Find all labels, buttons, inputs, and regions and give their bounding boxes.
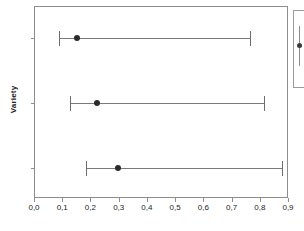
legend-marker-icon: [297, 43, 302, 48]
x-tick-label-8: 0,8: [245, 203, 275, 212]
x-tick-label-1: 0,1: [47, 203, 77, 212]
x-tick-0: [34, 198, 35, 202]
x-tick-7: [232, 198, 233, 202]
y-tick-a: [31, 38, 35, 39]
x-tick-label-6: 0,6: [188, 203, 218, 212]
errorbar-cap-upper-a: [250, 31, 251, 46]
data-point-b: [94, 100, 100, 106]
x-tick-5: [175, 198, 176, 202]
x-tick-6: [203, 198, 204, 202]
errorbar-line-a: [59, 38, 250, 39]
errorbar-cap-lower-b: [70, 96, 71, 111]
data-point-c: [115, 165, 121, 171]
x-tick-4: [147, 198, 148, 202]
errorbar-cap-upper-c: [282, 161, 283, 176]
x-tick-3: [119, 198, 120, 202]
x-tick-label-3: 0,3: [104, 203, 134, 212]
y-axis-title: Variety: [9, 65, 18, 135]
errorbar-cap-lower-a: [59, 31, 60, 46]
x-tick-2: [90, 198, 91, 202]
x-tick-label-2: 0,2: [75, 203, 105, 212]
errorbar-cap-lower-c: [86, 161, 87, 176]
x-tick-1: [62, 198, 63, 202]
x-tick-label-0: 0,0: [19, 203, 49, 212]
x-tick-label-4: 0,4: [132, 203, 162, 212]
x-tick-label-5: 0,5: [160, 203, 190, 212]
data-point-a: [74, 35, 80, 41]
x-tick-9: [288, 198, 289, 202]
interval-plot: Variety A B C: [0, 0, 304, 231]
x-tick-label-9: 0,9: [273, 203, 303, 212]
y-tick-c: [31, 168, 35, 169]
x-tick-8: [260, 198, 261, 202]
x-tick-label-7: 0,7: [217, 203, 247, 212]
x-axis: 0,0 0,1 0,2 0,3 0,4 0,5 0,6 0,7 0,8 0,9: [34, 198, 288, 220]
y-tick-b: [31, 103, 35, 104]
plot-area: A B C: [34, 6, 288, 198]
errorbar-cap-upper-b: [264, 96, 265, 111]
